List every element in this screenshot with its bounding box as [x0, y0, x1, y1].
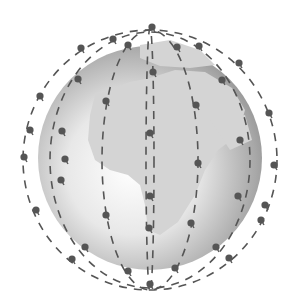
satellite-constellation-diagram [0, 0, 300, 306]
